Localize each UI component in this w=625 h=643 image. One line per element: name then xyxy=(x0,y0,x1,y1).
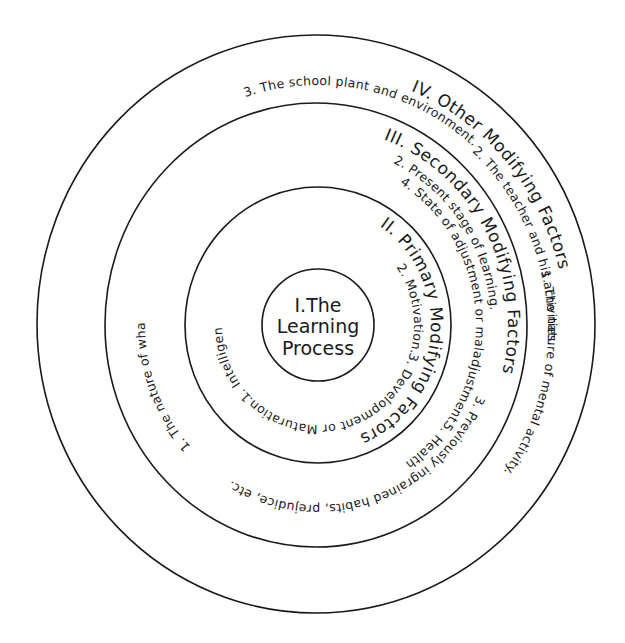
learning-process-diagram: I.The Learning Process IV. Other Modifyi… xyxy=(0,0,625,643)
core-label-line3: Process xyxy=(282,337,354,359)
core-label-line2: Learning xyxy=(277,315,360,337)
core-label-line1: I.The xyxy=(295,294,342,316)
ring-outer-item-3: 3. The school plant and environment. xyxy=(242,73,482,149)
ring-primary-item-3: 3. Development or Maturation. xyxy=(242,351,422,437)
ring-secondary-item-1: 1. The nature of what is to be learned. xyxy=(0,0,193,455)
